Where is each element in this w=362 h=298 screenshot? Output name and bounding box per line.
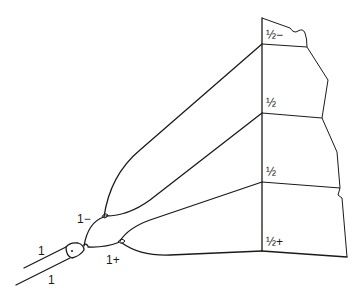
segment-label-2: ½: [266, 97, 276, 109]
segment-label-1: ½−: [266, 29, 283, 41]
segment-label-4: ½+: [266, 236, 283, 248]
branches-from-lower: [120, 182, 262, 255]
root-label-upper: 1: [38, 245, 45, 257]
segment-outline: [262, 18, 347, 257]
branches-from-upper: [104, 44, 262, 217]
root-joint-icon: [66, 243, 84, 258]
branch-label-lower: 1+: [106, 254, 120, 266]
root-label-lower: 1: [48, 274, 55, 286]
branch-label-upper: 1−: [77, 213, 91, 225]
segment-label-3: ½: [266, 166, 276, 178]
diagram-canvas: [0, 0, 362, 298]
